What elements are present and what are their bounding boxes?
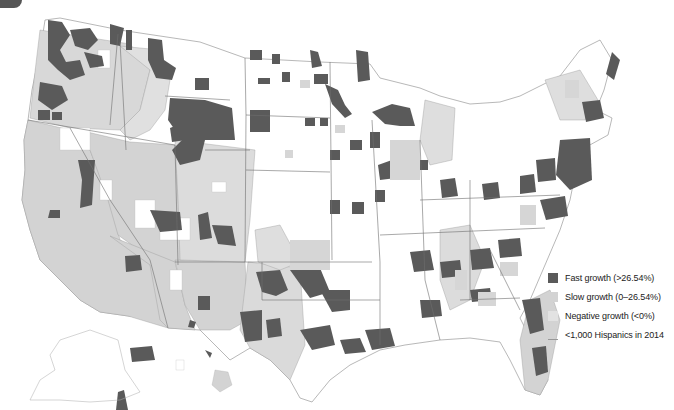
legend-label: Slow growth (0–26.54%)	[565, 292, 661, 302]
low-population-swatch	[548, 333, 558, 340]
legend-label: Negative growth (<0%)	[565, 311, 655, 321]
fast-growth-swatch	[548, 273, 558, 283]
negative-growth-swatch	[548, 311, 558, 321]
legend-item-negative: Negative growth (<0%)	[548, 306, 674, 325]
legend-item-slow: Slow growth (0–26.54%)	[548, 287, 674, 306]
legend-item-fast: Fast growth (>26.54%)	[548, 268, 674, 287]
us-county-map	[0, 0, 674, 410]
hawaii	[212, 370, 232, 392]
legend-label: <1,000 Hispanics in 2014	[565, 330, 664, 340]
legend-label: Fast growth (>26.54%)	[565, 273, 654, 283]
slow-growth-swatch	[548, 292, 558, 302]
legend-item-none: <1,000 Hispanics in 2014	[548, 325, 674, 344]
map-legend: Fast growth (>26.54%) Slow growth (0–26.…	[548, 268, 674, 344]
